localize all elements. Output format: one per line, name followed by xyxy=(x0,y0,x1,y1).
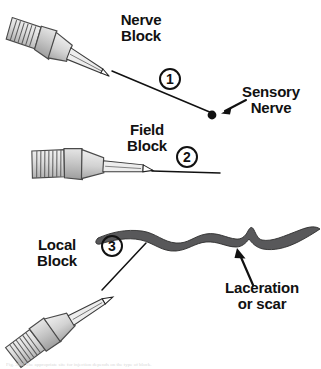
callout-number-2: 2 xyxy=(176,146,198,168)
illustration-canvas xyxy=(0,0,321,369)
needle-local-block xyxy=(3,282,120,369)
callout-number-1: 1 xyxy=(159,68,181,90)
laceration-shape xyxy=(96,227,320,251)
needle-2-flange xyxy=(30,148,66,180)
needle-2-trajectory xyxy=(152,171,220,173)
label-laceration: Laceration or scar xyxy=(206,280,318,312)
figure-container: Nerve Block 1 Sensory Nerve Field Block … xyxy=(0,0,321,369)
callout-number-3: 3 xyxy=(101,235,123,257)
label-nerve-block: Nerve Block xyxy=(104,12,178,44)
figure-caption: Fig. 30-3 The appropriate site for injec… xyxy=(6,362,316,369)
label-sensory-nerve: Sensory Nerve xyxy=(228,84,314,116)
needle-nerve-block xyxy=(3,11,117,87)
sensory-nerve-dot xyxy=(208,111,217,120)
label-field-block: Field Block xyxy=(112,122,182,154)
label-local-block: Local Block xyxy=(22,237,92,269)
